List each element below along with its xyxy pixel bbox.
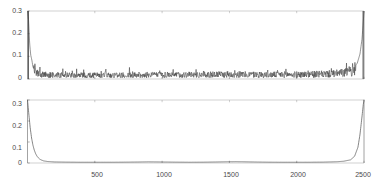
plot-area-top [0,0,375,93]
trace-smooth [28,100,365,162]
xtick-label-500: 500 [82,171,112,179]
xtick-label-1000: 1000 [149,171,179,179]
plot-area-bottom [0,93,375,186]
xtick-label-2000: 2000 [283,171,313,179]
xtick-label-1500: 1500 [216,171,246,179]
trace-noisy [28,11,365,78]
xtick-label-2500: 2500 [348,171,375,179]
figure-canvas: 0.3 0.2 0.1 0 0.3 0.2 0.1 0 500 1000 150… [0,0,375,186]
chart-panel-bottom: 0.3 0.2 0.1 0 500 1000 1500 2000 2500 [0,93,375,186]
chart-panel-top: 0.3 0.2 0.1 0 [0,0,375,93]
